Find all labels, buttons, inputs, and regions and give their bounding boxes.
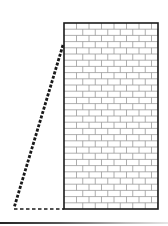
brick-wall [64, 23, 158, 209]
ladder-dashed-line [14, 45, 63, 208]
ladder-wall-diagram [0, 0, 168, 226]
bottom-divider [0, 222, 168, 224]
